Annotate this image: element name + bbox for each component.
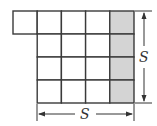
shaded-square: [110, 34, 134, 57]
vertical-dimension-label: S: [139, 49, 149, 65]
square: [86, 80, 110, 103]
grid: [13, 11, 134, 103]
arrowhead-left-icon: [38, 112, 45, 117]
square: [61, 34, 85, 57]
square: [61, 11, 85, 34]
square: [37, 80, 61, 103]
shaded-square: [110, 11, 134, 34]
horizontal-dimension-label: S: [80, 106, 90, 122]
square: [61, 57, 85, 80]
shaded-square: [110, 57, 134, 80]
square: [37, 34, 61, 57]
square: [37, 11, 61, 34]
square: [86, 11, 110, 34]
square: [37, 57, 61, 80]
shaded-square: [110, 80, 134, 103]
arrowhead-down-icon: [142, 95, 147, 102]
arrowhead-right-icon: [126, 112, 133, 117]
square: [61, 80, 85, 103]
square-grid-diagram: S S: [0, 0, 157, 126]
arrowhead-up-icon: [142, 12, 147, 19]
square: [86, 34, 110, 57]
square: [86, 57, 110, 80]
square: [13, 11, 37, 34]
